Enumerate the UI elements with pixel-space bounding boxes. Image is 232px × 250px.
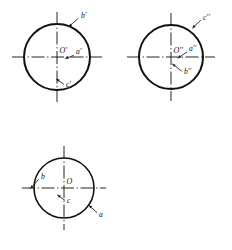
point-label-c-prime: c' [66,80,71,89]
view-top-view: Oabc [22,146,106,230]
point-label-point-b: b [41,172,45,181]
point-label-c-double-prime: c'' [203,13,210,22]
point-label-a-prime: a' [76,47,82,56]
point-label-b-prime: b' [81,11,87,20]
view-front-view: O'a'b'c' [12,11,102,102]
view-side-view: O''a''b''c'' [127,13,215,101]
point-label-point-c: c [67,196,71,205]
diagram-canvas: O'a'b'c'O''a''b''c''Oabc [0,0,232,250]
orthographic-projection-diagram: O'a'b'c'O''a''b''c''Oabc [0,0,232,250]
point-label-a-double-prime: a'' [189,44,196,53]
origin-label: O' [60,46,68,55]
origin-label: O [67,177,73,186]
point-label-b-double-prime: b'' [184,67,191,76]
point-label-point-a: a [99,210,103,219]
origin-label: O'' [174,46,183,55]
